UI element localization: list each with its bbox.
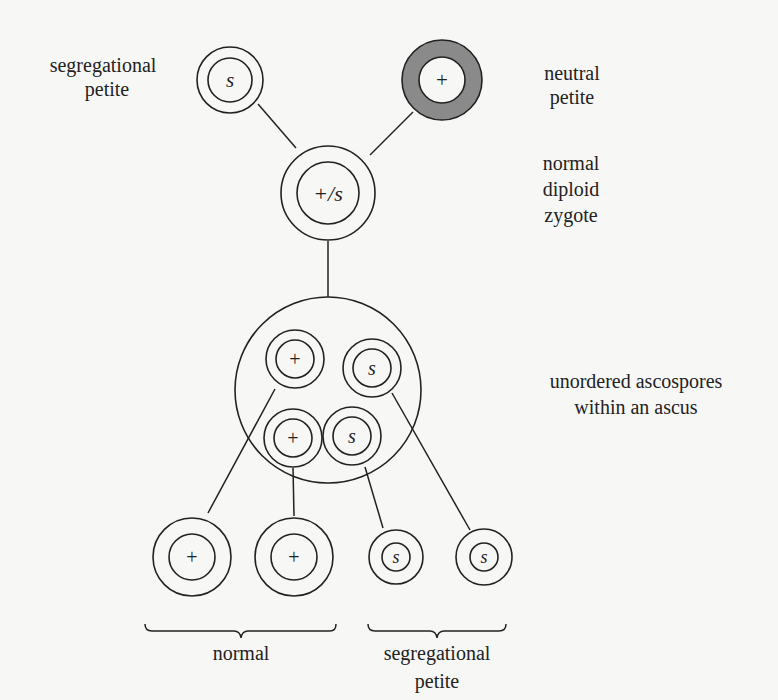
cell-symbol: s xyxy=(348,425,356,447)
line-seg-parent-to-zygote xyxy=(258,104,296,148)
cell-symbol: s xyxy=(392,547,399,567)
svg-text:segregational: segregational xyxy=(384,642,491,665)
ascospore-2: s xyxy=(343,339,401,397)
svg-text:petite: petite xyxy=(85,78,130,101)
cell-symbol: + xyxy=(186,546,197,568)
label-zygote: normal diploid zygote xyxy=(543,152,600,227)
svg-text:neutral: neutral xyxy=(544,62,600,84)
line-spore2-to-progeny4 xyxy=(392,393,470,530)
progeny-normal-2: + xyxy=(255,518,333,596)
progeny-seg-petite-2: s xyxy=(456,529,512,585)
cell-symbol: +/s xyxy=(313,181,343,206)
label-seg-petite-top: segregational petite xyxy=(50,54,157,101)
label-seg-petite-group: segregational petite xyxy=(384,642,491,693)
svg-text:zygote: zygote xyxy=(544,204,597,227)
cell-symbol: + xyxy=(288,546,299,568)
ascus-wall xyxy=(235,297,421,483)
brace-seg-petite xyxy=(368,624,506,638)
label-normal-group: normal xyxy=(213,642,270,664)
svg-text:petite: petite xyxy=(415,670,460,693)
ascospore-4: s xyxy=(323,407,381,465)
svg-text:normal: normal xyxy=(543,152,600,174)
brace-normal xyxy=(145,624,336,638)
cell-symbol: s xyxy=(226,68,234,92)
seg-petite-parent-cell: s xyxy=(197,47,263,113)
ascospore-3: + xyxy=(264,409,322,467)
svg-text:petite: petite xyxy=(550,86,595,109)
line-spore1-to-progeny1 xyxy=(208,389,275,513)
neutral-petite-parent-cell: + xyxy=(402,40,482,120)
cell-symbol: + xyxy=(436,68,448,92)
svg-text:normal: normal xyxy=(213,642,270,664)
line-spore4-to-progeny3 xyxy=(365,467,383,528)
line-neutral-parent-to-zygote xyxy=(370,112,413,155)
svg-text:diploid: diploid xyxy=(543,178,600,201)
progeny-seg-petite-1: s xyxy=(369,530,423,584)
line-spore3-to-progeny2 xyxy=(293,468,294,516)
label-neutral-petite: neutral petite xyxy=(544,62,600,109)
cell-symbol: s xyxy=(368,357,376,379)
progeny-normal-1: + xyxy=(153,518,231,596)
petite-cross-diagram: s + +/s + s + s xyxy=(0,0,778,700)
svg-text:unordered ascospores: unordered ascospores xyxy=(550,370,723,393)
connector-lines xyxy=(208,104,470,530)
cell-symbol: + xyxy=(287,427,298,449)
cell-symbol: s xyxy=(480,547,487,567)
label-ascus: unordered ascospores within an ascus xyxy=(550,370,723,418)
diploid-zygote-cell: +/s xyxy=(281,146,375,240)
ascospore-1: + xyxy=(266,330,324,388)
cell-symbol: + xyxy=(289,348,300,370)
ascus: + s + s xyxy=(235,297,421,483)
svg-text:within an ascus: within an ascus xyxy=(574,396,698,418)
svg-text:segregational: segregational xyxy=(50,54,157,77)
